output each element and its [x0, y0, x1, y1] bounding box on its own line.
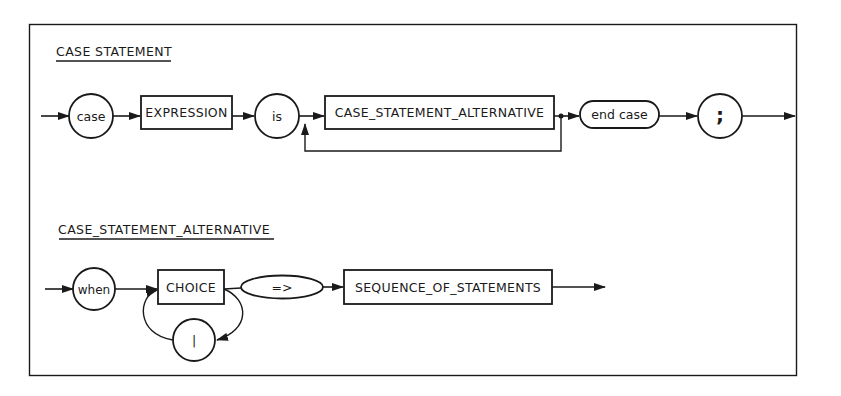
terminal-arrow-operator: => [241, 276, 323, 299]
terminal-arrow-operator-label: => [272, 280, 293, 295]
nonterminal-expression: EXPRESSION [141, 96, 232, 129]
keyword-is: is [255, 94, 299, 138]
nonterminal-case-statement-alternative-label: CASE_STATEMENT_ALTERNATIVE [335, 105, 545, 120]
terminal-semicolon: ; [698, 94, 742, 138]
keyword-when: when [73, 268, 115, 310]
keyword-end-case-label: end case [591, 107, 648, 122]
syntax-diagram: CASE STATEMENT case EXPRESSION is CASE_S… [0, 0, 841, 396]
connector-line [224, 288, 241, 289]
keyword-end-case: end case [580, 101, 659, 128]
nonterminal-expression-label: EXPRESSION [145, 105, 227, 120]
separator-bar: | [173, 319, 215, 361]
rule-title-case-statement: CASE STATEMENT [56, 44, 172, 59]
rule-title-case-statement-alternative: CASE_STATEMENT_ALTERNATIVE [58, 222, 270, 237]
nonterminal-choice: CHOICE [158, 270, 224, 304]
keyword-case: case [69, 94, 113, 138]
keyword-when-label: when [78, 283, 110, 297]
keyword-case-label: case [77, 109, 106, 124]
rule-case-statement-alternative: CASE_STATEMENT_ALTERNATIVE when CHOICE |… [45, 222, 605, 361]
nonterminal-sequence-of-statements-label: SEQUENCE_OF_STATEMENTS [355, 280, 541, 295]
nonterminal-sequence-of-statements: SEQUENCE_OF_STATEMENTS [344, 270, 552, 304]
separator-bar-label: | [192, 333, 196, 348]
nonterminal-case-statement-alternative: CASE_STATEMENT_ALTERNATIVE [325, 96, 554, 129]
rule-case-statement: CASE STATEMENT case EXPRESSION is CASE_S… [41, 44, 795, 151]
diagram-frame [30, 25, 797, 376]
terminal-semicolon-label: ; [716, 103, 724, 127]
nonterminal-choice-label: CHOICE [166, 280, 216, 295]
keyword-is-label: is [272, 109, 282, 124]
